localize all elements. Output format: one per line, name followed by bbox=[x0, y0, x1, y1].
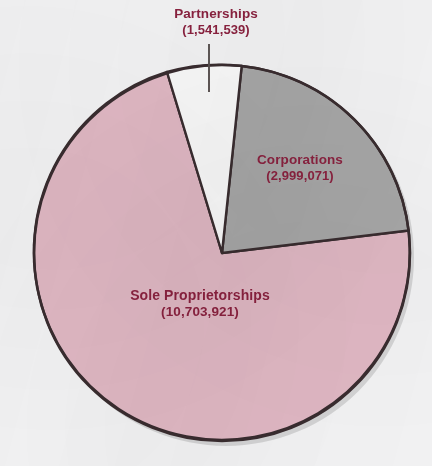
pie-chart-figure: Partnerships (1,541,539) Corporations (2… bbox=[0, 0, 432, 466]
slice-label-partnerships: Partnerships (1,541,539) bbox=[0, 6, 432, 37]
slice-label-corporations-name: Corporations bbox=[196, 152, 404, 168]
slice-label-corporations: Corporations (2,999,071) bbox=[196, 152, 404, 183]
slice-label-corporations-value: (2,999,071) bbox=[196, 168, 404, 183]
slice-label-partnerships-value: (1,541,539) bbox=[0, 22, 432, 37]
pie-chart-graphic bbox=[0, 0, 432, 466]
slice-label-sole-proprietorships-value: (10,703,921) bbox=[30, 304, 370, 320]
slice-label-sole-proprietorships: Sole Proprietorships (10,703,921) bbox=[30, 287, 370, 319]
slice-label-partnerships-name: Partnerships bbox=[0, 6, 432, 22]
slice-label-sole-proprietorships-name: Sole Proprietorships bbox=[30, 287, 370, 304]
